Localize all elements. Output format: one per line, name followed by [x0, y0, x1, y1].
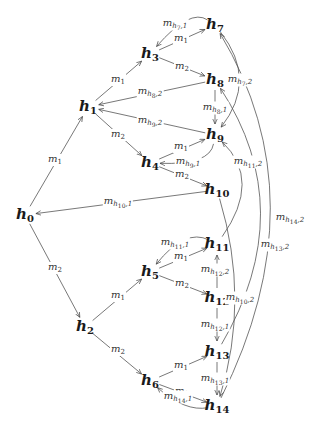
- node-h14: h14: [205, 398, 230, 415]
- node-h8: h8: [206, 72, 224, 89]
- edge-label-h3-h8: m2: [174, 61, 190, 73]
- node-h1: h1: [79, 99, 97, 116]
- edge-label-h4-h10: m2: [174, 169, 190, 181]
- edge-label-h13-h8: mh13,2: [260, 239, 290, 252]
- edge-label-h10-h14: mh10,2: [225, 292, 255, 305]
- edge-label-h10-h0: mh10,1: [103, 196, 133, 209]
- edge-label-h8-h1: mh8,2: [137, 86, 164, 99]
- node-h11: h11: [205, 236, 230, 253]
- edge-label-h12-h11: mh12,2: [200, 264, 230, 277]
- edge-label-h0-h1: m1: [47, 154, 63, 166]
- edge-label-h14-h7: mh14,2: [275, 212, 305, 225]
- edge-label-h11-h5: mh11,1: [160, 237, 190, 250]
- state-transition-diagram: h0h1h2h3h4h5h6h7h8h9h10h11h12h13h14 m1m2…: [0, 0, 325, 430]
- edge-label-h2-h5: m1: [110, 290, 126, 302]
- node-h9: h9: [206, 127, 224, 144]
- node-h4: h4: [141, 155, 159, 172]
- node-h3: h3: [141, 46, 159, 63]
- edge-label-h9-h1: mh9,2: [137, 115, 164, 128]
- edge-label-h1-h3: m1: [110, 74, 126, 86]
- edge-label-h7-h3: mh7,1: [162, 18, 189, 31]
- edge-label-h5-h12: m2: [174, 278, 190, 290]
- edge-label-h12-h13: mh12,1: [200, 319, 230, 332]
- edge-label-h6-h13: m1: [173, 360, 189, 372]
- node-h2: h2: [76, 319, 94, 336]
- edge-label-h0-h2: m2: [47, 262, 63, 274]
- node-h13: h13: [205, 344, 230, 361]
- edge-label-h7-h9: mh7,2: [227, 74, 254, 87]
- edge-label-h1-h4: m2: [110, 129, 126, 141]
- edge-label-h3-h7: m1: [173, 33, 189, 45]
- edge-label-h5-h11: m1: [173, 251, 189, 263]
- node-h10: h10: [205, 182, 230, 199]
- node-h6: h6: [141, 373, 159, 390]
- edge-label-h9-h4: mh9,1: [175, 156, 202, 169]
- node-h5: h5: [141, 264, 159, 281]
- edge-label-h13-h14: mh13,1: [200, 373, 230, 386]
- node-h0: h0: [16, 207, 34, 224]
- edge-label-h14-h6: mh14,1: [163, 391, 193, 404]
- node-h7: h7: [206, 17, 224, 34]
- edge-label-h8-h9: mh8,1: [202, 102, 229, 115]
- edge-label-h2-h6: m2: [110, 344, 126, 356]
- edge-label-h11-h9: mh11,2: [233, 156, 263, 169]
- edge-label-h4-h9: m1: [173, 141, 189, 153]
